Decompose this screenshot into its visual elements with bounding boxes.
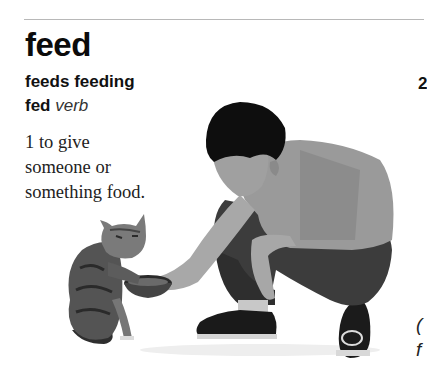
reaching-arm bbox=[158, 195, 255, 290]
definition-line-2: someone or bbox=[25, 155, 215, 180]
past-form: fed bbox=[25, 96, 51, 115]
cat-figure bbox=[69, 214, 147, 344]
face bbox=[212, 150, 268, 196]
hair bbox=[206, 102, 286, 162]
floor-shadow bbox=[140, 344, 380, 356]
word-forms: feeds feeding fed verb bbox=[25, 70, 135, 118]
cat-tail bbox=[72, 330, 113, 344]
past-form-line: fed verb bbox=[25, 94, 135, 118]
resting-arm bbox=[251, 235, 296, 300]
cat-head bbox=[100, 214, 146, 258]
back-shoe bbox=[339, 300, 371, 358]
cut-off-line-2: f bbox=[416, 337, 422, 362]
cut-off-line-1: ( bbox=[416, 312, 422, 337]
inflections: feeds feeding bbox=[25, 70, 135, 94]
top-rule bbox=[24, 19, 424, 20]
trousers bbox=[214, 200, 392, 306]
cat-body bbox=[69, 242, 123, 340]
sense-2-number: 2 bbox=[418, 74, 427, 94]
cut-off-text: ( f bbox=[416, 312, 422, 362]
front-shoe bbox=[197, 310, 277, 336]
definition-line-3: something food. bbox=[25, 180, 215, 205]
headword: feed bbox=[25, 28, 91, 62]
sense-number: 1 bbox=[25, 132, 34, 152]
food-bowl bbox=[124, 275, 172, 298]
definition-text: to give bbox=[39, 132, 90, 152]
shirt bbox=[232, 140, 394, 250]
definition-line-1: 1 to give bbox=[25, 130, 215, 155]
part-of-speech: verb bbox=[55, 96, 88, 115]
definition-sense-1: 1 to give someone or something food. bbox=[25, 130, 215, 205]
